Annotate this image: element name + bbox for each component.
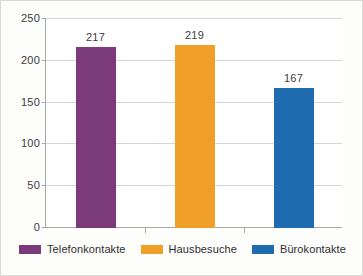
y-axis-tick-label: 150 bbox=[21, 96, 40, 108]
legend-color-swatch bbox=[141, 245, 163, 254]
bar-value-label: 217 bbox=[86, 31, 105, 43]
legend-item[interactable]: Bürokontakte bbox=[252, 243, 346, 255]
legend-label: Bürokontakte bbox=[280, 243, 346, 255]
legend-label: Telefonkontakte bbox=[47, 243, 126, 255]
x-axis-category-tick bbox=[244, 228, 245, 233]
y-axis-tick-label: 250 bbox=[21, 12, 40, 24]
legend-label: Hausbesuche bbox=[169, 243, 237, 255]
bar-chart-figure: 250200150100500 217219167 Telefonkontakt… bbox=[0, 0, 363, 276]
y-axis-tick-mark bbox=[42, 143, 46, 144]
y-axis-tick-label: 50 bbox=[27, 179, 40, 191]
y-axis-tick-label: 0 bbox=[34, 221, 40, 233]
y-axis-tick-mark bbox=[42, 102, 46, 103]
legend-color-swatch bbox=[19, 245, 41, 254]
legend-item[interactable]: Telefonkontakte bbox=[19, 243, 126, 255]
bar-value-label: 167 bbox=[284, 72, 303, 84]
chart-legend: TelefonkontakteHausbesucheBürokontakte bbox=[1, 243, 363, 255]
bar-value-label: 219 bbox=[185, 29, 204, 41]
y-axis-tick-label: 100 bbox=[21, 137, 40, 149]
y-axis-tick-mark bbox=[42, 185, 46, 186]
gridline: 250 bbox=[46, 18, 342, 19]
y-axis-tick-mark bbox=[42, 60, 46, 61]
x-axis-category-tick bbox=[145, 228, 146, 233]
y-axis-tick-mark bbox=[42, 18, 46, 19]
bar-hausbesuche[interactable]: 219 bbox=[175, 45, 215, 228]
plot-area: 250200150100500 217219167 bbox=[45, 19, 342, 228]
legend-item[interactable]: Hausbesuche bbox=[141, 243, 237, 255]
y-axis-tick-label: 200 bbox=[21, 54, 40, 66]
bar-bürokontakte[interactable]: 167 bbox=[274, 88, 314, 228]
y-axis-tick-mark bbox=[42, 227, 46, 228]
bar-telefonkontakte[interactable]: 217 bbox=[76, 47, 116, 228]
legend-color-swatch bbox=[252, 245, 274, 254]
